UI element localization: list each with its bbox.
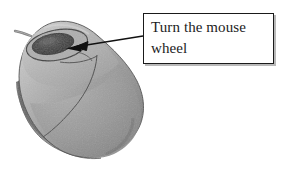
mouse-wheel-figure: Turn the mouse wheel [0,0,282,171]
callout-text: Turn the mouse wheel [151,17,270,59]
callout-box: Turn the mouse wheel [143,13,274,64]
